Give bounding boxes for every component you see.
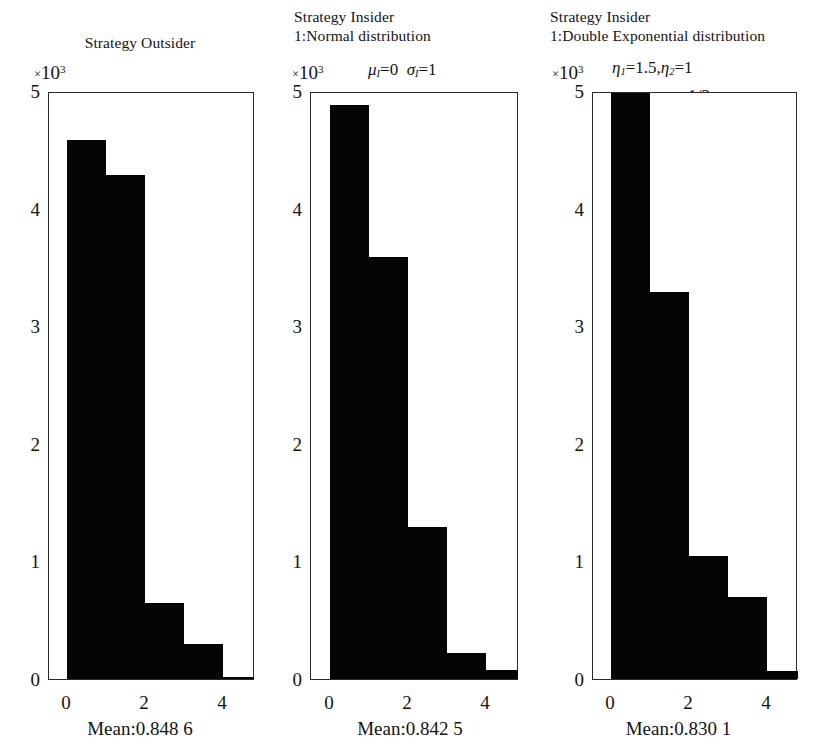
y-tick-label: 1 <box>276 551 302 573</box>
y-tick-label: 4 <box>276 199 302 221</box>
bar-bin-0 <box>330 105 369 679</box>
exponent-power: 3 <box>318 63 324 75</box>
bar-bin-3 <box>447 653 486 679</box>
x-tick-label: 4 <box>751 692 781 714</box>
panel-title-line: Strategy Outsider <box>0 34 280 53</box>
y-tick-label: 0 <box>276 669 302 691</box>
exponent-power: 3 <box>578 63 584 75</box>
y-tick-label: 0 <box>558 669 584 691</box>
bar-bin-1 <box>650 292 689 679</box>
panel-caption: Mean:0.842 5 <box>280 718 540 740</box>
y-tick-label: 0 <box>14 669 40 691</box>
exponent-power: 3 <box>60 63 66 75</box>
x-tick-label: 2 <box>673 692 703 714</box>
bars-group <box>49 93 253 679</box>
panel-title-line: 1:Normal distribution <box>294 27 540 46</box>
x-tick-label: 4 <box>207 692 237 714</box>
x-tick-label: 2 <box>129 692 159 714</box>
y-tick-label: 5 <box>14 81 40 103</box>
bar-bin-1 <box>106 175 145 679</box>
distribution-parameters: μI=0 σI=1 <box>368 60 437 80</box>
panel-title-line: 1:Double Exponential distribution <box>550 27 817 46</box>
histogram-figure: Strategy Outsider ×103 5 4 3 2 1 0 0 2 4… <box>0 0 817 751</box>
y-tick-label: 2 <box>276 434 302 456</box>
multiply-sign: × <box>34 67 41 81</box>
bars-group <box>593 93 796 679</box>
bar-bin-2 <box>408 527 447 679</box>
plot-area <box>592 92 797 680</box>
x-tick-label: 4 <box>470 692 500 714</box>
panel-title-line: Strategy Insider <box>294 8 540 27</box>
panel-title: Strategy Outsider <box>0 34 280 53</box>
bars-group <box>311 93 517 679</box>
bar-bin-4 <box>486 670 518 679</box>
y-tick-label: 5 <box>276 81 302 103</box>
bar-bin-3 <box>728 597 767 679</box>
y-tick-label: 5 <box>558 81 584 103</box>
y-tick-label: 2 <box>558 434 584 456</box>
x-tick-label: 2 <box>392 692 422 714</box>
x-tick-label: 0 <box>595 692 625 714</box>
y-tick-label: 4 <box>14 199 40 221</box>
multiply-sign: × <box>552 67 559 81</box>
y-tick-label: 3 <box>14 316 40 338</box>
panel-strategy-insider-double-exponential: Strategy Insider 1:Double Exponential di… <box>540 0 817 751</box>
exponent-base: 10 <box>41 62 60 83</box>
panel-strategy-outsider: Strategy Outsider ×103 5 4 3 2 1 0 0 2 4… <box>0 0 280 751</box>
bar-bin-0 <box>611 93 650 679</box>
y-tick-label: 3 <box>276 316 302 338</box>
panel-strategy-insider-normal: Strategy Insider 1:Normal distribution ×… <box>280 0 540 751</box>
exponent-base: 10 <box>559 62 578 83</box>
exponent-base: 10 <box>299 62 318 83</box>
bar-bin-2 <box>145 603 184 679</box>
bar-bin-4 <box>223 677 254 679</box>
bar-bin-2 <box>689 556 728 679</box>
distribution-parameters-line-1: η1=1.5,η2=1 <box>612 58 693 78</box>
y-tick-label: 1 <box>14 551 40 573</box>
panel-caption: Mean:0.848 6 <box>0 718 280 740</box>
bar-bin-0 <box>67 140 106 679</box>
bar-bin-1 <box>369 257 408 679</box>
y-tick-label: 4 <box>558 199 584 221</box>
panel-title: Strategy Insider 1:Normal distribution <box>294 8 540 45</box>
x-tick-label: 0 <box>51 692 81 714</box>
plot-area <box>310 92 518 680</box>
y-tick-label: 3 <box>558 316 584 338</box>
panel-title-line: Strategy Insider <box>550 8 817 27</box>
panel-caption: Mean:0.830 1 <box>540 718 817 740</box>
multiply-sign: × <box>292 67 299 81</box>
x-tick-label: 0 <box>314 692 344 714</box>
bar-bin-4 <box>767 671 798 679</box>
bar-bin-3 <box>184 644 223 679</box>
y-tick-label: 2 <box>14 434 40 456</box>
panel-title: Strategy Insider 1:Double Exponential di… <box>550 8 817 45</box>
plot-area <box>48 92 254 680</box>
y-tick-label: 1 <box>558 551 584 573</box>
